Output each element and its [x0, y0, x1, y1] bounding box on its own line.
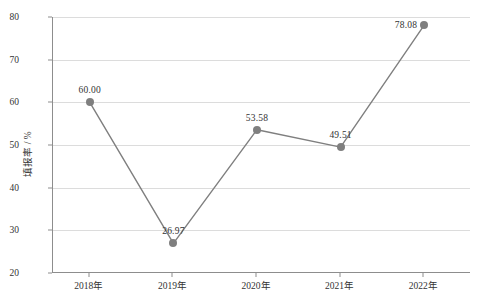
y-axis-title: 填报率 / % [20, 131, 34, 176]
data-point-labels: 60.0026.9753.5849.5178.08 [53, 17, 470, 272]
data-point-label: 53.58 [246, 113, 268, 123]
y-axis-tick-label: 40 [0, 183, 19, 193]
x-axis-tick-label: 2021年 [325, 278, 354, 292]
y-axis-tick-label: 70 [0, 55, 19, 65]
x-axis-tick-mark [88, 273, 89, 277]
data-point-label: 78.08 [395, 20, 417, 30]
x-axis-tick-mark [423, 273, 424, 277]
data-point-label: 49.51 [329, 130, 351, 140]
x-axis-tick-mark [172, 273, 173, 277]
x-axis-tick-label: 2018年 [74, 278, 103, 292]
x-axis-tick-label: 2022年 [409, 278, 438, 292]
x-axis-tick-label: 2020年 [242, 278, 271, 292]
x-axis-tick-label: 2019年 [158, 278, 187, 292]
x-axis-tick-mark [339, 273, 340, 277]
y-axis-tick-label: 30 [0, 225, 19, 235]
y-axis-tick-label: 20 [0, 268, 19, 278]
y-axis-tick-label: 60 [0, 97, 19, 107]
data-point-label: 60.00 [79, 85, 101, 95]
plot-area: 60.0026.9753.5849.5178.08 [52, 17, 470, 273]
y-axis-tick-label: 80 [0, 12, 19, 22]
y-axis-tick-label: 50 [0, 140, 19, 150]
data-point-label: 26.97 [162, 226, 184, 236]
x-axis-tick-mark [256, 273, 257, 277]
line-chart: 填报率 / % 20304050607080 60.0026.9753.5849… [0, 0, 493, 308]
